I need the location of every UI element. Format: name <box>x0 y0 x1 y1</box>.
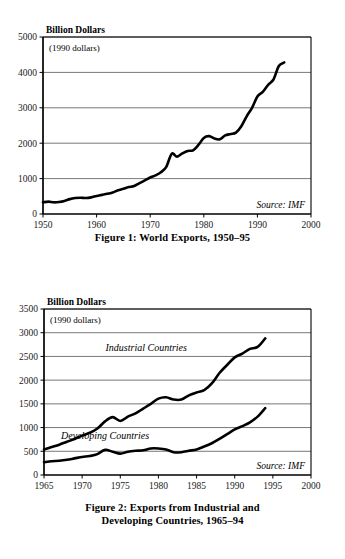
xtick-label-1990: 1990 <box>225 481 244 491</box>
xtick-label-1990: 1990 <box>248 220 267 230</box>
xtick-label-1980: 1980 <box>149 481 168 491</box>
y-axis-ticks: 010002000300040005000 <box>18 32 43 219</box>
xtick-label-1970: 1970 <box>73 481 92 491</box>
units-note: (1990 dollars) <box>49 43 100 53</box>
figure-2-caption-line-1: Figure 2: Exports from Industrial and <box>0 501 345 514</box>
xtick-label-1965: 1965 <box>35 481 54 491</box>
ytick-label-1500: 1500 <box>19 399 38 409</box>
source-note: Source: IMF <box>257 461 306 471</box>
ytick-label-4000: 4000 <box>18 68 37 78</box>
ytick-label-3000: 3000 <box>18 103 37 113</box>
ytick-label-2000: 2000 <box>19 376 38 386</box>
xtick-label-2000: 2000 <box>302 481 321 491</box>
ytick-label-0: 0 <box>33 470 38 480</box>
plot-frame <box>44 309 311 475</box>
series-line-1 <box>43 62 284 202</box>
series-label-2: Developing Countries <box>60 430 149 441</box>
plot-frame <box>43 37 311 214</box>
y-axis-title: Billion Dollars <box>47 297 106 307</box>
x-axis-ticks: 19651970197519801985199019952000 <box>35 475 321 491</box>
series-label-1: Industrial Countries <box>105 342 188 353</box>
ytick-label-1000: 1000 <box>19 423 38 433</box>
world-exports-plot: 0100020003000400050001950196019701980199… <box>0 0 345 248</box>
figure-1-caption-text: Figure 1: World Exports, 1950–95 <box>95 232 250 243</box>
xtick-label-1950: 1950 <box>34 220 53 230</box>
x-axis-ticks: 195019601970198019902000 <box>34 214 321 230</box>
ytick-label-0: 0 <box>32 209 37 219</box>
source-note: Source: IMF <box>257 200 306 210</box>
xtick-label-1970: 1970 <box>141 220 160 230</box>
figure-2-caption-line-2: Developing Countries, 1965–94 <box>0 514 345 527</box>
xtick-label-1995: 1995 <box>263 481 282 491</box>
ytick-label-3000: 3000 <box>19 328 38 338</box>
ytick-label-3500: 3500 <box>19 304 38 314</box>
xtick-label-1960: 1960 <box>87 220 106 230</box>
ytick-label-2000: 2000 <box>18 139 37 149</box>
ytick-label-500: 500 <box>24 447 39 457</box>
figure-1-caption: Figure 1: World Exports, 1950–95 <box>0 231 345 244</box>
xtick-label-1980: 1980 <box>194 220 213 230</box>
figure-2: 0500100015002000250030003500196519701975… <box>0 272 345 559</box>
industrial-developing-exports-plot: 0500100015002000250030003500196519701975… <box>0 272 345 502</box>
xtick-label-1985: 1985 <box>187 481 206 491</box>
world-exports-chart: 0100020003000400050001950196019701980199… <box>0 0 345 248</box>
y-axis-title: Billion Dollars <box>46 25 105 35</box>
xtick-label-1975: 1975 <box>111 481 130 491</box>
y-axis-ticks: 0500100015002000250030003500 <box>19 304 44 480</box>
ytick-label-5000: 5000 <box>18 32 37 42</box>
units-note: (1990 dollars) <box>50 315 101 325</box>
figure-1: 0100020003000400050001950196019701980199… <box>0 0 345 272</box>
figure-2-caption: Figure 2: Exports from Industrial and De… <box>0 501 345 527</box>
xtick-label-2000: 2000 <box>302 220 321 230</box>
ytick-label-1000: 1000 <box>18 174 37 184</box>
ytick-label-2500: 2500 <box>19 352 38 362</box>
